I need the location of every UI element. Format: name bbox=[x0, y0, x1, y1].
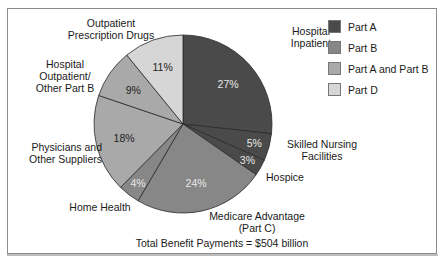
label-line: Facilities bbox=[272, 150, 372, 162]
label-line: Hospice bbox=[266, 171, 304, 183]
total-caption: Total Benefit Payments = $504 billion bbox=[0, 237, 444, 249]
label-line: Outpatient bbox=[56, 17, 166, 29]
label-line: Physicians and bbox=[16, 141, 102, 153]
label-medicare-advantage: Medicare Advantage (Part C) bbox=[192, 210, 322, 234]
label-prescription-drugs: Outpatient Prescription Drugs bbox=[56, 17, 166, 41]
legend-label: Part A and Part B bbox=[348, 63, 429, 75]
label-hospice: Hospice bbox=[266, 171, 304, 183]
legend-item-part-a-and-b: Part A and Part B bbox=[328, 58, 429, 79]
slice-percent-label: 18% bbox=[114, 132, 135, 144]
slice-percent-label: 5% bbox=[247, 137, 262, 149]
label-line: Home Health bbox=[69, 201, 130, 213]
legend-swatch bbox=[328, 62, 341, 75]
label-line: Other Suppliers bbox=[16, 153, 102, 165]
legend-label: Part B bbox=[348, 42, 377, 54]
label-physicians: Physicians and Other Suppliers bbox=[16, 141, 102, 165]
label-line: Skilled Nursing bbox=[272, 138, 372, 150]
legend-item-part-a: Part A bbox=[328, 16, 429, 37]
slice-percent-label: 9% bbox=[126, 84, 141, 96]
legend-label: Part D bbox=[348, 84, 378, 96]
slice-percent-label: 27% bbox=[218, 78, 239, 90]
label-skilled-nursing: Skilled Nursing Facilities bbox=[272, 138, 372, 162]
legend: Part A Part B Part A and Part B Part D bbox=[328, 16, 429, 100]
legend-swatch bbox=[328, 41, 341, 54]
label-line: Other Part B bbox=[32, 82, 98, 94]
slice-percent-label: 11% bbox=[153, 61, 173, 73]
label-line: Hospital bbox=[32, 58, 98, 70]
label-line: (Part C) bbox=[192, 222, 322, 234]
label-line: Medicare Advantage bbox=[192, 210, 322, 222]
legend-label: Part A bbox=[348, 21, 377, 33]
legend-swatch bbox=[328, 20, 341, 33]
legend-item-part-d: Part D bbox=[328, 79, 429, 100]
label-hospital-outpatient: Hospital Outpatient/ Other Part B bbox=[32, 58, 98, 94]
legend-swatch bbox=[328, 83, 341, 96]
slice-percent-label: 3% bbox=[240, 154, 255, 166]
label-home-health: Home Health bbox=[60, 201, 140, 213]
slice-percent-label: 24% bbox=[186, 177, 207, 189]
slice-percent-label: 4% bbox=[131, 177, 146, 189]
legend-item-part-b: Part B bbox=[328, 37, 429, 58]
label-line: Prescription Drugs bbox=[56, 29, 166, 41]
label-line: Outpatient/ bbox=[32, 70, 98, 82]
